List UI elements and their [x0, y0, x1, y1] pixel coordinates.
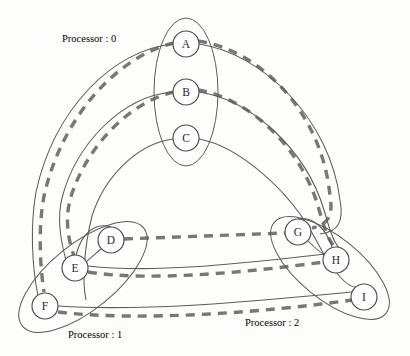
node-A[interactable]: A: [173, 31, 199, 57]
node-F[interactable]: F: [32, 293, 58, 319]
cluster-label-processor-2: Processor : 2: [245, 317, 299, 328]
solid-edge-A-G: [199, 44, 341, 234]
node-D-label: D: [107, 234, 115, 246]
node-E[interactable]: E: [62, 255, 88, 281]
node-H[interactable]: H: [323, 247, 349, 273]
node-F-label: F: [42, 300, 48, 312]
solid-edge-D-E: [85, 249, 101, 263]
solid-edge-F-I: [58, 292, 352, 308]
graph-partition-diagram: A B C D E F: [0, 0, 410, 356]
solid-edge-E-H: [88, 254, 326, 269]
dashed-edge-A-G: [198, 41, 331, 228]
cluster-group: [2, 18, 406, 352]
node-G-label: G: [294, 226, 302, 238]
diagram-canvas: A B C D E F: [0, 0, 410, 356]
node-B-label: B: [182, 86, 190, 98]
dashed-edge-group: [40, 41, 352, 316]
node-A-label: A: [182, 38, 191, 50]
cluster-label-processor-0: Processor : 0: [62, 33, 116, 44]
node-G[interactable]: G: [285, 219, 311, 245]
node-D[interactable]: D: [98, 227, 124, 253]
node-C-label: C: [182, 132, 190, 144]
solid-edge-G-H: [308, 241, 326, 256]
node-I[interactable]: I: [351, 284, 377, 310]
dashed-edge-D-G: [124, 233, 285, 239]
node-B[interactable]: B: [173, 79, 199, 105]
node-I-label: I: [362, 291, 366, 303]
dashed-edge-E-H: [88, 262, 324, 276]
node-H-label: H: [332, 254, 340, 266]
cluster-label-processor-1: Processor : 1: [68, 329, 122, 340]
node-C[interactable]: C: [173, 125, 199, 151]
node-E-label: E: [71, 262, 78, 274]
